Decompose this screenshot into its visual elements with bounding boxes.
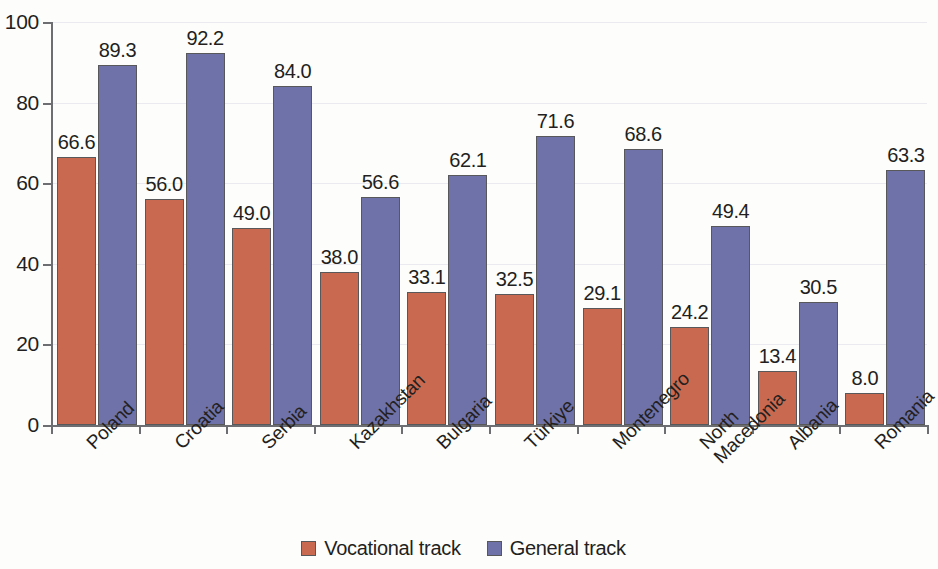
y-axis-tick-label: 60 [1,172,39,193]
bar-general[interactable] [98,65,137,425]
x-axis-tick [51,425,53,434]
legend-label-vocational: Vocational track [324,538,460,558]
bar-vocational[interactable] [495,294,534,425]
bar-value-label: 68.6 [611,124,675,144]
y-axis-tick-label: 40 [1,253,39,274]
bar-vocational[interactable] [145,199,184,425]
bar-general[interactable] [186,53,225,425]
bar-value-label: 84.0 [261,61,325,81]
y-axis-tick-label: 20 [1,333,39,354]
bar-value-label: 62.1 [436,150,500,170]
x-axis-tick [664,425,666,434]
bar-vocational[interactable] [57,157,96,425]
bar-value-label: 63.3 [874,145,938,165]
bar-vocational[interactable] [232,228,271,425]
bar-vocational[interactable] [583,308,622,425]
x-axis-tick [401,425,403,434]
bar-value-label: 56.6 [348,172,412,192]
y-axis-tick [43,264,51,266]
bar-value-label: 49.4 [699,201,763,221]
plot-area: 66.689.356.092.249.084.038.056.633.162.1… [51,22,927,425]
legend-swatch-icon-vocational [301,541,316,556]
x-axis-tick [489,425,491,434]
bar-value-label: 92.2 [173,28,237,48]
bar-vocational[interactable] [407,292,446,425]
x-axis-tick [139,425,141,434]
legend-swatch-icon-general [487,541,502,556]
y-axis-tick [43,183,51,185]
y-axis-tick [43,103,51,105]
bar-value-label: 30.5 [786,277,850,297]
y-axis-tick [43,22,51,24]
y-axis-tick-label: 100 [1,11,39,32]
bar-general[interactable] [624,149,663,425]
bar-vocational[interactable] [320,272,359,425]
legend-label-general: General track [510,538,626,558]
bar-general[interactable] [886,170,925,425]
bar-value-label: 71.6 [524,111,588,131]
bar-value-label: 89.3 [86,40,150,60]
chart-legend: Vocational track General track [0,538,927,558]
x-axis-tick [927,425,929,434]
x-axis-tick [226,425,228,434]
x-axis-tick [839,425,841,434]
x-axis-tick [577,425,579,434]
y-axis-tick-label: 80 [1,92,39,113]
bar-general[interactable] [536,136,575,425]
legend-item-vocational-track[interactable]: Vocational track [301,538,460,558]
bar-vocational[interactable] [845,393,884,425]
y-axis-tick-label: 0 [1,414,39,435]
y-axis-tick [43,344,51,346]
y-axis-tick [43,425,51,427]
x-axis-tick [314,425,316,434]
legend-item-general-track[interactable]: General track [487,538,626,558]
bar-general[interactable] [448,175,487,425]
